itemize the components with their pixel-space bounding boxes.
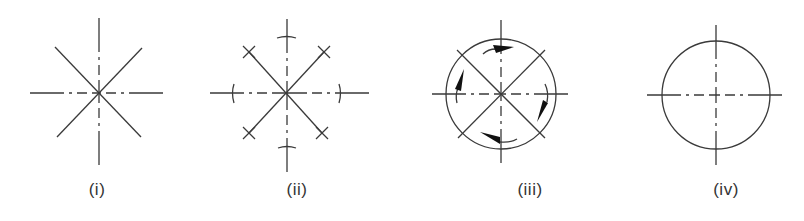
panel-i-symbol (30, 18, 163, 165)
clockwise-arrow-top (483, 45, 514, 54)
cross-mark-bottom-right (316, 127, 328, 139)
panel-label-iv: (iv) (713, 180, 739, 200)
panel-iii-symbol (432, 20, 568, 163)
cross-mark-top-right (318, 46, 330, 58)
diagonal-line (55, 47, 141, 137)
panel-iv-symbol (647, 25, 782, 165)
cross-mark-top-left (243, 46, 255, 58)
clockwise-arrow-right (537, 84, 548, 122)
clockwise-arrow-left (455, 69, 464, 103)
panel-ii-symbol (210, 19, 369, 172)
panel-label-iii: (iii) (517, 180, 542, 200)
cross-mark-bottom-left (243, 127, 255, 139)
panel-label-ii: (ii) (287, 180, 308, 200)
diagram-canvas (0, 0, 804, 221)
clockwise-arrow-bottom (480, 132, 517, 144)
panel-label-i: (i) (89, 180, 106, 200)
